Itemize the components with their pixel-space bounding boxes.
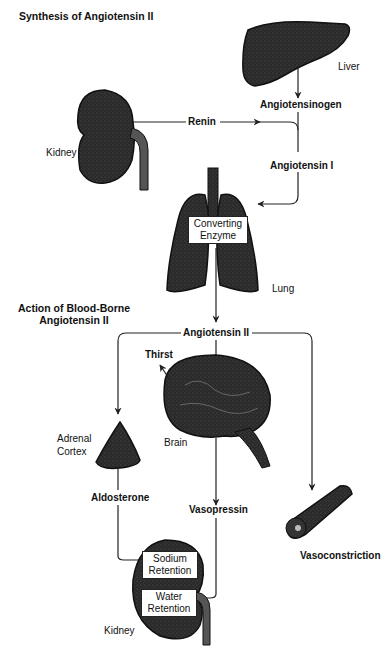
converting-enzyme-box: Converting Enzyme — [188, 216, 248, 244]
water-line2: Retention — [144, 603, 194, 615]
converting-enzyme-line2: Enzyme — [191, 230, 245, 242]
brain-illustration — [164, 355, 270, 468]
water-line1: Water — [144, 591, 194, 603]
adrenal-cortex-label: Adrenal Cortex — [57, 432, 91, 458]
adrenal-line1: Adrenal — [57, 432, 91, 445]
vasopressin-label: Vasopressin — [189, 504, 248, 515]
angiotensinogen-label: Angiotensinogen — [260, 99, 342, 110]
kidney-top-illustration — [78, 90, 148, 190]
angiotensin-2-label: Angiotensin II — [183, 327, 249, 338]
blood-vessel-illustration — [286, 486, 352, 539]
sodium-line2: Retention — [145, 565, 195, 577]
liver-label: Liver — [338, 61, 360, 72]
adrenal-line2: Cortex — [57, 445, 91, 458]
lung-label: Lung — [272, 283, 294, 294]
kidney-bottom-label: Kidney — [104, 625, 135, 636]
converting-enzyme-line1: Converting — [191, 218, 245, 230]
renin-label: Renin — [188, 116, 216, 127]
thirst-label: Thirst — [145, 349, 173, 360]
action-heading-line2: Angiotensin II — [18, 314, 130, 326]
aldosterone-label: Aldosterone — [91, 492, 149, 503]
sodium-retention-box: Sodium Retention — [142, 551, 198, 579]
water-retention-box: Water Retention — [141, 589, 197, 617]
brain-label: Brain — [164, 437, 187, 448]
kidney-top-label: Kidney — [46, 147, 77, 158]
adrenal-illustration — [96, 422, 140, 468]
sodium-line1: Sodium — [145, 553, 195, 565]
angiotensin-1-label: Angiotensin I — [270, 160, 333, 171]
action-heading-line1: Action of Blood-Borne — [18, 302, 130, 314]
synthesis-heading: Synthesis of Angiotensin II — [19, 10, 153, 22]
vasoconstriction-label: Vasoconstriction — [300, 550, 381, 561]
action-heading: Action of Blood-Borne Angiotensin II — [18, 302, 130, 326]
liver-illustration — [243, 22, 350, 86]
